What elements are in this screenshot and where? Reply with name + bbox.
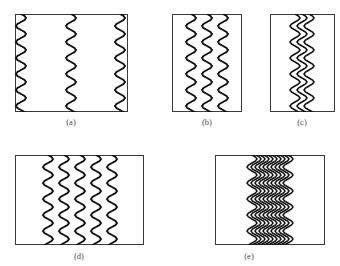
panel-c-label: (c) — [282, 117, 322, 127]
wave-line — [43, 155, 53, 245]
panel-e — [215, 155, 325, 245]
wave-line — [59, 155, 69, 245]
wave-line — [75, 155, 85, 245]
panel-a-label: (a) — [51, 117, 91, 127]
panel-d-waves — [15, 155, 144, 245]
wave-line — [186, 14, 196, 112]
panel-d — [15, 155, 144, 245]
wave-line — [107, 155, 117, 245]
cropped-top-caption — [84, 0, 340, 5]
panel-e-waves — [215, 155, 325, 245]
wave-line — [202, 14, 212, 112]
panel-a — [15, 14, 128, 112]
panel-b-waves — [172, 14, 242, 112]
wave-line — [115, 14, 125, 112]
panel-a-waves — [15, 14, 128, 112]
panel-d-label: (d) — [59, 251, 99, 261]
panel-b — [172, 14, 242, 112]
panel-e-label: (e) — [229, 251, 269, 261]
panel-c-waves — [270, 14, 335, 112]
panel-c — [270, 14, 335, 112]
wave-line — [66, 14, 76, 112]
wave-line — [91, 155, 101, 245]
wave-line — [16, 14, 26, 112]
figure-root: (a) (b) (c) (d) (e) — [0, 0, 340, 266]
wave-line — [283, 155, 293, 245]
panel-b-label: (b) — [187, 117, 227, 127]
wave-line — [218, 14, 228, 112]
